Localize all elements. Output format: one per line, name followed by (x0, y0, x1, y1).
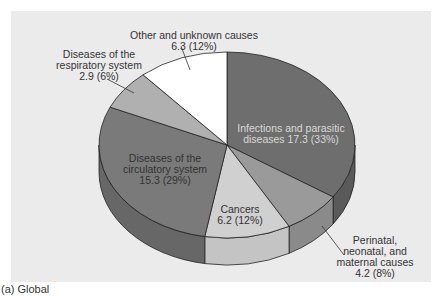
label-circulatory: Diseases of the circulatory system 15.3 … (110, 153, 220, 186)
label-infections: Infections and parasitic diseases 17.3 (… (226, 123, 356, 145)
label-cancers: Cancers 6.2 (12%) (205, 204, 275, 226)
label-respiratory: Diseases of the respiratory system 2.9 (… (44, 49, 154, 82)
figure-caption: (a) Global (1, 283, 49, 295)
label-perinatal: Perinatal, neonatal, and maternal causes… (325, 235, 425, 279)
